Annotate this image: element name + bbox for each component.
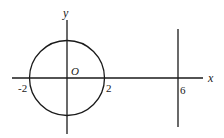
vertical-line-label: 6 [180, 84, 186, 96]
x-axis-label: x [207, 71, 214, 85]
y-axis-label: y [62, 6, 69, 20]
circle-left-intercept-label: -2 [18, 82, 27, 94]
circle-right-intercept-label: 2 [106, 82, 112, 94]
origin-label: O [71, 65, 79, 77]
coordinate-diagram: y x O -2 2 6 [0, 0, 224, 138]
